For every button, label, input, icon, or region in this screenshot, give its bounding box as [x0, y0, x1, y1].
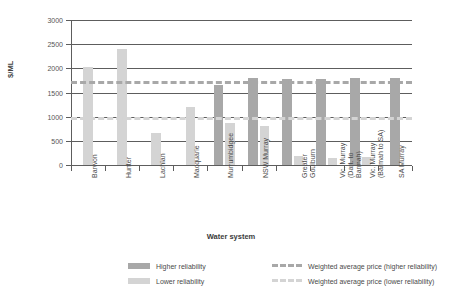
legend-item[interactable]: Weighted average price (higher reliabili…: [272, 262, 437, 270]
x-axis-label: Murrumbidgee: [227, 133, 235, 178]
bar-lower-reliability: [117, 49, 127, 165]
x-axis-label: Macquarie: [193, 145, 201, 178]
legend-item[interactable]: Higher reliability: [128, 262, 206, 270]
x-axis-tick: [207, 166, 208, 171]
legend-dash-icon: [272, 279, 302, 282]
x-axis-label-line: Goulburn: [309, 149, 317, 178]
legend-swatch-icon: [128, 278, 150, 284]
y-axis-title: $/ML: [6, 61, 15, 78]
bar-group: [71, 20, 105, 165]
x-axis-label-line: (Dart. to: [347, 143, 355, 178]
x-axis-tick: [139, 166, 140, 171]
x-axis-tick: [242, 166, 243, 171]
x-axis-label: Hunter: [125, 157, 133, 178]
bar-higher-reliability: [248, 78, 258, 165]
bar-group: [242, 20, 276, 165]
reference-line: [71, 117, 412, 120]
bar-group: [276, 20, 310, 165]
x-axis-label-line: NSW Murray: [262, 138, 270, 178]
x-axis-label-line: Barwon: [91, 154, 99, 178]
x-axis-label-line: SA Murray: [398, 145, 406, 178]
x-axis-label-line: Greater: [301, 149, 309, 178]
legend-swatch-icon: [128, 263, 150, 269]
x-axis-label-line: Vic. Murray: [339, 143, 347, 178]
y-axis-tick-label: 0: [59, 162, 63, 169]
x-axis-title: Water system: [0, 232, 462, 241]
legend-label: Higher reliability: [156, 263, 206, 270]
legend-label: Weighted average price (lower reliabilit…: [308, 278, 434, 285]
x-axis-label: Vic. Murray(Dart. toBarmah): [339, 143, 363, 178]
x-axis-tick: [412, 166, 413, 171]
y-axis-tick-label: 500: [51, 137, 63, 144]
bar-higher-reliability: [214, 85, 224, 165]
legend-label: Lower reliability: [156, 278, 204, 285]
y-axis-tick-label: 2500: [47, 41, 63, 48]
x-axis-tick: [173, 166, 174, 171]
y-axis-tick-label: 2000: [47, 65, 63, 72]
y-axis-tick-label: 3000: [47, 17, 63, 24]
y-axis-tick-label: 1500: [47, 89, 63, 96]
x-axis-tick: [71, 166, 72, 171]
x-axis-label-line: Macquarie: [193, 145, 201, 178]
bar-higher-reliability: [282, 79, 292, 165]
x-axis-label: Barwon: [91, 154, 99, 178]
x-axis-label-line: (Barmah to SA): [377, 130, 385, 178]
chart-figure: $/ML 050010001500200025003000 BarwonHunt…: [0, 0, 462, 302]
x-axis-label: NSW Murray: [262, 138, 270, 178]
x-axis-tick: [105, 166, 106, 171]
bar-group: [207, 20, 241, 165]
x-axis-label: GreaterGoulburn: [301, 149, 317, 178]
bar-lower-reliability: [328, 158, 338, 165]
x-axis-label-line: Barmah): [355, 143, 363, 178]
y-axis-tick-label: 1000: [47, 113, 63, 120]
reference-line: [71, 81, 412, 84]
legend-item[interactable]: Lower reliability: [128, 277, 204, 285]
bar-higher-reliability: [316, 79, 326, 165]
legend-label: Weighted average price (higher reliabili…: [308, 263, 437, 270]
x-axis-label-line: Lachlan: [159, 153, 167, 178]
chart-legend: Higher reliabilityLower reliabilityWeigh…: [0, 258, 462, 292]
legend-item[interactable]: Weighted average price (lower reliabilit…: [272, 277, 434, 285]
x-axis-tick: [276, 166, 277, 171]
x-axis-label-line: Murrumbidgee: [227, 133, 235, 178]
bar-group: [139, 20, 173, 165]
legend-dash-icon: [272, 264, 302, 267]
x-axis-label: Vic. Murray(Barmah to SA): [369, 130, 385, 178]
x-axis-label: Lachlan: [159, 153, 167, 178]
x-axis-label-line: Hunter: [125, 157, 133, 178]
x-axis-label-line: Vic. Murray: [369, 130, 377, 178]
x-axis-label: SA Murray: [398, 145, 406, 178]
bar-group: [105, 20, 139, 165]
bar-group: [173, 20, 207, 165]
